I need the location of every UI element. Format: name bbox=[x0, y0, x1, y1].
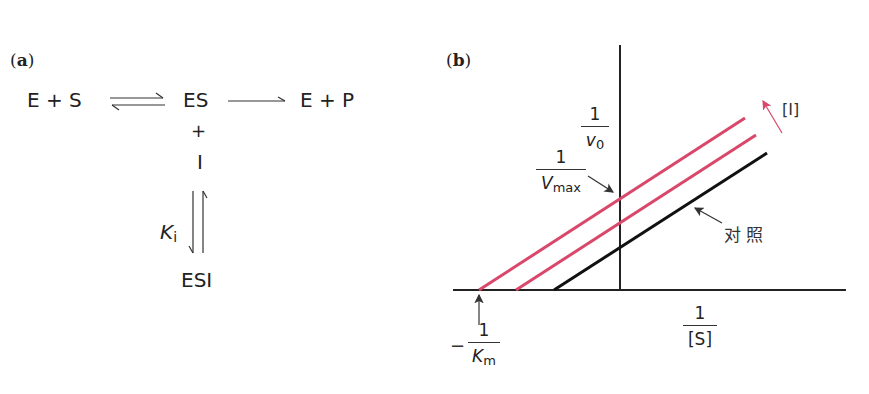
equilibrium-arrows bbox=[110, 93, 165, 110]
ki-equilibrium-arrows bbox=[189, 191, 207, 253]
forward-arrow bbox=[228, 97, 285, 101]
inhibitor-increase-arrow bbox=[763, 101, 782, 133]
inhibited-line-high bbox=[479, 118, 745, 290]
diagram-graphics bbox=[0, 0, 869, 394]
vmax-pointer-arrow bbox=[588, 176, 613, 192]
control-pointer-arrow bbox=[695, 208, 722, 223]
inhibited-line-low bbox=[516, 135, 756, 290]
